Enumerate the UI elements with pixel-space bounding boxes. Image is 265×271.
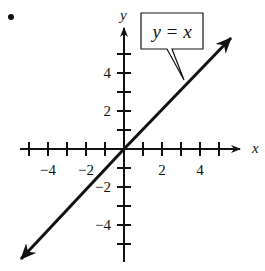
x-tick-label-m4: −4 — [40, 162, 56, 178]
x-tick-label-2: 2 — [158, 162, 166, 178]
y-tick-label-4: 4 — [104, 65, 112, 81]
x-axis: −4 −2 2 4 x — [20, 140, 259, 178]
x-axis-label: x — [251, 140, 259, 156]
y-tick-label-m4: −4 — [95, 217, 111, 233]
y-tick-label-m2: −2 — [95, 179, 111, 195]
graph: −4 −2 2 4 x 4 2 −2 −4 y y = x — [0, 0, 265, 271]
x-tick-label-m2: −2 — [78, 162, 94, 178]
y-axis: 4 2 −2 −4 y — [95, 7, 131, 262]
y-axis-label: y — [118, 7, 127, 23]
callout-label: y = x — [150, 21, 192, 42]
callout-y-equals-x: y = x — [141, 13, 203, 80]
x-tick-label-4: 4 — [196, 162, 204, 178]
y-tick-label-2: 2 — [104, 103, 112, 119]
